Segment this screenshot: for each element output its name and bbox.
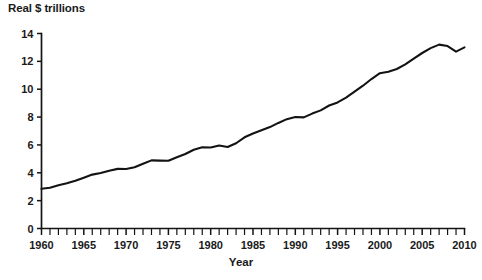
x-tick-label: 2005 [410, 239, 434, 251]
axis-lines [42, 34, 465, 229]
x-tick-label: 1975 [156, 239, 180, 251]
y-tick-label: 6 [27, 139, 33, 151]
chart-container: Real $ trillions 02468101214 19601965197… [0, 0, 482, 280]
real-gdp-line [42, 45, 465, 189]
y-tick-label: 8 [27, 111, 33, 123]
y-tick-label: 12 [21, 55, 33, 67]
x-axis-ticks: 1960196519701975198019851990199520002005… [29, 229, 476, 251]
x-tick-label: 2010 [452, 239, 476, 251]
x-tick-label: 1985 [241, 239, 265, 251]
y-tick-label: 2 [27, 195, 33, 207]
x-tick-label: 1965 [72, 239, 96, 251]
x-tick-label: 1960 [29, 239, 53, 251]
x-tick-label: 1970 [114, 239, 138, 251]
x-tick-label: 1980 [198, 239, 222, 251]
x-axis-title: Year [0, 256, 482, 268]
y-tick-label: 4 [27, 167, 34, 179]
y-tick-label: 0 [27, 223, 33, 235]
y-tick-label: 14 [21, 28, 34, 40]
x-tick-label: 1990 [283, 239, 307, 251]
y-axis-ticks: 02468101214 [21, 28, 41, 235]
y-tick-label: 10 [21, 83, 33, 95]
x-tick-label: 2000 [368, 239, 392, 251]
line-chart-svg: 02468101214 1960196519701975198019851990… [0, 0, 482, 280]
x-tick-label: 1995 [325, 239, 349, 251]
